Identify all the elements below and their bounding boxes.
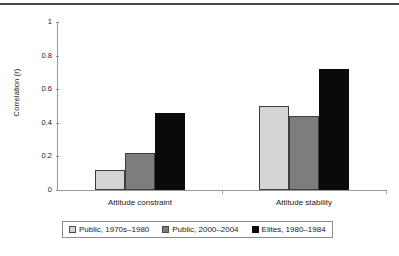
legend-item[interactable]: Elites, 1980–1984 bbox=[252, 225, 326, 234]
y-tick-label: 0.8 bbox=[42, 52, 52, 60]
x-axis-category-label: Attitude stability bbox=[222, 198, 386, 207]
legend-swatch-icon bbox=[252, 226, 259, 233]
bar bbox=[95, 170, 125, 190]
legend-swatch-icon bbox=[162, 226, 169, 233]
bar bbox=[289, 116, 319, 190]
x-axis-end-tick bbox=[386, 190, 387, 194]
y-axis-tick-labels: 00.20.40.60.81 bbox=[30, 14, 56, 196]
legend-label: Public, 1970s–1980 bbox=[79, 225, 149, 234]
top-divider-rule bbox=[0, 3, 399, 5]
legend-label: Public, 2000–2004 bbox=[172, 225, 238, 234]
bar bbox=[155, 113, 185, 190]
plot-area: Correlation (r) 00.20.40.60.81 Attitude … bbox=[0, 14, 399, 196]
y-tick-label: 1 bbox=[48, 18, 52, 26]
bar bbox=[259, 106, 289, 190]
legend-item[interactable]: Public, 1970s–1980 bbox=[69, 225, 149, 234]
bar bbox=[125, 153, 155, 190]
legend-label: Elites, 1980–1984 bbox=[262, 225, 326, 234]
y-tick-label: 0.2 bbox=[42, 152, 52, 160]
y-axis-title: Correlation (r) bbox=[12, 33, 21, 153]
x-axis-category-labels: Attitude constraintAttitude stability bbox=[58, 198, 386, 212]
x-axis-group-separator-tick bbox=[222, 190, 223, 194]
y-tick-label: 0.4 bbox=[42, 119, 52, 127]
x-axis-category-label: Attitude constraint bbox=[58, 198, 222, 207]
chart-legend: Public, 1970s–1980Public, 2000–2004Elite… bbox=[62, 221, 333, 238]
bar-chart-figure: Correlation (r) 00.20.40.60.81 Attitude … bbox=[0, 0, 399, 256]
y-tick-label: 0.6 bbox=[42, 85, 52, 93]
bars-container bbox=[58, 22, 386, 190]
legend-item[interactable]: Public, 2000–2004 bbox=[162, 225, 238, 234]
legend-swatch-icon bbox=[69, 226, 76, 233]
y-tick-label: 0 bbox=[48, 186, 52, 194]
bar bbox=[319, 69, 349, 190]
